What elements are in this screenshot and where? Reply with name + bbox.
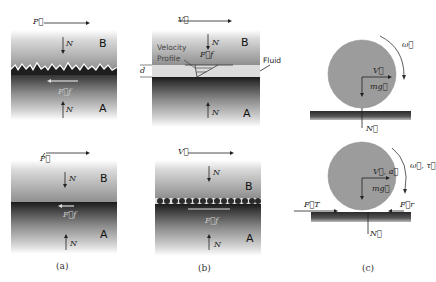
normal-label: N⃗ xyxy=(370,229,382,238)
applied-force-label: F⃗T xyxy=(304,200,320,209)
omega-tau-label: ω⃗, τ⃗ xyxy=(410,161,436,170)
weight-label: mg⃗ xyxy=(372,184,390,193)
rolling-friction-label: F⃗r xyxy=(400,200,414,209)
velocity-accel-label: V⃗, a⃗ xyxy=(373,167,398,176)
caption-c: (c) xyxy=(362,263,374,273)
panel-c-bottom-graphics xyxy=(0,0,436,282)
